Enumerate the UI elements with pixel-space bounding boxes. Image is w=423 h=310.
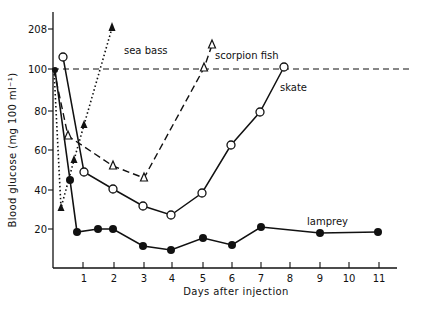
y-tick-20: 20 — [34, 224, 47, 235]
y-tick-60: 60 — [34, 145, 47, 156]
label-lamprey: lamprey — [307, 216, 348, 227]
y-tick-80: 80 — [34, 106, 47, 117]
open-triangle-markers — [65, 40, 216, 181]
y-tick-100: 100 — [28, 64, 47, 75]
series-scorpion-fish — [54, 40, 216, 181]
x-tick-2: 2 — [111, 273, 117, 284]
y-ticks — [48, 29, 53, 229]
y-axis-title: Blood glucose (mg 100 ml⁻¹) — [7, 73, 18, 228]
series-skate — [59, 53, 288, 219]
label-skate: skate — [280, 82, 307, 93]
y-tick-labels: 208 100 80 60 40 20 — [28, 24, 47, 235]
x-tick-4: 4 — [169, 273, 175, 284]
x-tick-5: 5 — [200, 273, 206, 284]
y-tick-208: 208 — [28, 24, 47, 35]
label-sea-bass: sea bass — [124, 45, 168, 56]
open-circle-markers — [59, 53, 288, 219]
x-tick-9: 9 — [317, 273, 323, 284]
x-tick-11: 11 — [373, 273, 386, 284]
y-tick-40: 40 — [34, 185, 47, 196]
blood-glucose-chart: 208 100 80 60 40 20 1 2 3 4 5 6 7 8 9 10… — [0, 0, 423, 310]
x-ticks — [83, 262, 379, 268]
x-tick-3: 3 — [141, 273, 147, 284]
x-tick-6: 6 — [229, 273, 235, 284]
x-tick-labels: 1 2 3 4 5 6 7 8 9 10 11 — [81, 273, 386, 284]
label-scorpion-fish: scorpion fish — [215, 50, 279, 61]
x-tick-10: 10 — [343, 273, 356, 284]
x-axis-title: Days after injection — [183, 286, 289, 297]
x-tick-1: 1 — [81, 273, 87, 284]
x-tick-8: 8 — [287, 273, 293, 284]
x-tick-7: 7 — [258, 273, 264, 284]
